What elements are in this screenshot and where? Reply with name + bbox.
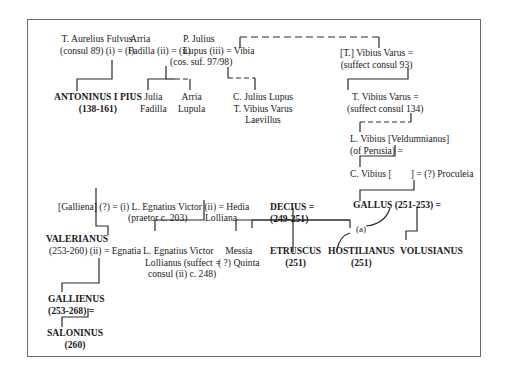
person-t-vibius-varus-93: [T.] Vibius Varus = (suffect consul 93) xyxy=(340,47,413,70)
person-arria-lupula: Arria Lupula xyxy=(178,91,205,114)
person-valerianus: VALERIANUS (253-260) (ii) = Egnatia xyxy=(46,233,141,256)
person-p-julius-lupus: P. Julius Lupus (iii) = Vibia (cos. suf.… xyxy=(183,33,255,68)
person-arria-fadilla: Arria Fadilla (ii) = (ii) xyxy=(128,33,191,56)
person-c-julius-lupus: C. Julius Lupus T. Vibius Varus Laevillu… xyxy=(233,91,293,126)
person-egnatius-lollianus: L. Egnatius Victor Lollianus (suffect = … xyxy=(143,245,221,280)
person-gallienus: GALLIENUS (253-268) = xyxy=(48,293,105,316)
person-aurelius-fulvus: T. Aurelius Fulvus (consul 89) (i) = (i) xyxy=(60,33,134,56)
person-saloninus: SALONINUS (260) xyxy=(47,327,103,350)
adoption-mark: (a) xyxy=(356,224,366,236)
person-galliena-egnatius-hedia: [Galliena] (?) = (i) L. Egnatius Victor … xyxy=(58,201,249,213)
person-messia-quinta: Messia ( ?) Quinta xyxy=(218,245,260,268)
person-gallus: GALLUS (251-253) = xyxy=(353,199,441,211)
person-c-vibius: C. Vibius [ ] = (?) Proculeia xyxy=(350,168,474,180)
person-decius: DECIUS = (249-251) xyxy=(270,201,314,224)
person-etruscus: ETRUSCUS (251) xyxy=(270,245,321,268)
person-antoninus-pius: ANTONINUS I PIUS (138-161) xyxy=(54,91,142,114)
person-t-vibius-varus-134: T. Vibius Varus = (suffect consul 134) xyxy=(347,91,424,114)
person-volusianus: VOLUSIANUS xyxy=(400,245,463,257)
person-hostilianus: HOSTILIANUS (251) xyxy=(328,245,395,268)
person-l-vibius: L. Vibius [Veldumnianus] (of Perusia) = xyxy=(350,133,449,156)
person-egnatius-praetor-note: (praetor c. 203) xyxy=(128,212,187,224)
person-hedia-lolliana: Lolliana xyxy=(205,212,237,224)
person-julia-fadilla: Julia Fadilla xyxy=(140,91,167,114)
